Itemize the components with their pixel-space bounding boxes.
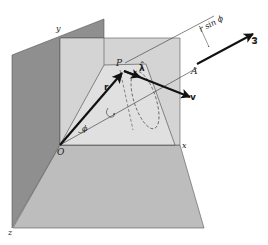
point-a-label: A xyxy=(191,67,198,76)
r-vector-label: r xyxy=(104,83,108,92)
omega-label: ω xyxy=(250,37,259,45)
v-vector-label: v xyxy=(190,93,196,102)
lambda-label: λ̂ xyxy=(139,64,145,73)
y-axis-label: y xyxy=(56,25,61,33)
phi-angle-label: ϕ xyxy=(82,125,87,133)
z-axis-label: z xyxy=(8,229,12,237)
vector-diagram: y x z O P A r v λ̂ ω ϕ r sin ϕ xyxy=(0,0,268,245)
origin-label: O xyxy=(57,148,64,157)
diagram-canvas xyxy=(0,0,268,245)
point-p-label: P xyxy=(116,59,122,68)
x-axis-label: x xyxy=(182,142,187,150)
